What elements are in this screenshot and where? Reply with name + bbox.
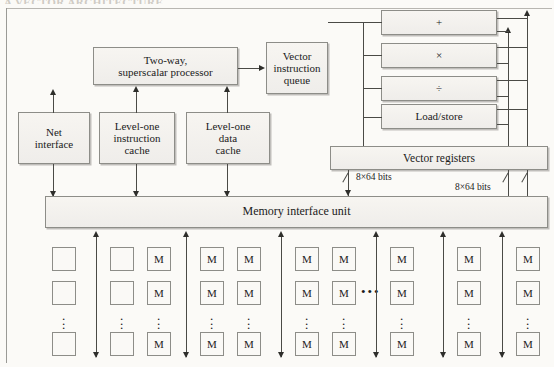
memory-cell [110, 247, 134, 271]
memory-cell-label: M [464, 253, 474, 265]
vector-queue-line2: instruction [271, 62, 322, 74]
arrowhead-processor-to-queue [259, 65, 265, 71]
block-l1-instruction-cache: Level-one instruction cache [99, 112, 175, 164]
memory-cell: M [237, 281, 261, 305]
memory-cell: M [332, 332, 356, 356]
memory-cell-label: M [154, 287, 164, 299]
memory-cell-label: M [523, 253, 533, 265]
wire-processor-to-queue [238, 68, 260, 69]
memory-cell-label: M [464, 338, 474, 350]
column-ellipsis: ... [206, 314, 217, 328]
memory-cell-label: M [523, 287, 533, 299]
block-vector-instruction-queue: Vector instruction queue [266, 42, 328, 94]
wire-miu-to-vregs-inner [508, 170, 509, 196]
memory-cell [110, 332, 134, 356]
memory-cell: M [295, 332, 319, 356]
memory-cell: M [200, 332, 224, 356]
column-ellipsis: ... [338, 314, 349, 328]
block-net-interface: Net interface [18, 112, 90, 164]
column-ellipsis: ... [116, 314, 127, 328]
arrowhead-l1d-to-processor [224, 86, 230, 92]
block-superscalar-processor: Two-way, superscalar processor [93, 47, 238, 85]
arrowhead-memory-bus-up [278, 231, 284, 237]
add-unit-label: + [434, 16, 444, 28]
memory-cell-label: M [302, 287, 312, 299]
wire-net-interface-up [53, 92, 54, 113]
processor-line1: Two-way, [116, 54, 214, 66]
memory-bus [96, 235, 97, 357]
result-tap-divide-outer [497, 80, 528, 81]
wire-queue-to-operand-bus [328, 22, 364, 23]
divide-unit-label: ÷ [434, 82, 444, 94]
memory-cell-label: M [244, 338, 254, 350]
block-vector-add-unit: + [381, 10, 497, 35]
memory-cell-label: M [154, 253, 164, 265]
memory-cell: M [237, 332, 261, 356]
memory-cell [52, 247, 76, 271]
operand-feed-multiply [363, 55, 382, 56]
memory-bus [281, 235, 282, 357]
wire-l1d-to-processor [227, 91, 228, 113]
memory-cell: M [516, 247, 540, 271]
arrowhead-memory-bus-down [440, 352, 446, 358]
block-vector-load-store-unit: Load/store [381, 104, 497, 129]
operand-feed-load-store [363, 117, 382, 118]
vector-registers-label: Vector registers [401, 152, 477, 165]
page-frame-left-rule [6, 8, 7, 363]
operand-feed-add [363, 22, 382, 23]
memory-cell: M [147, 247, 171, 271]
arrowhead-memory-bus-up [93, 231, 99, 237]
memory-bus [186, 235, 187, 357]
memory-cell-label: M [244, 287, 254, 299]
memory-cell: M [332, 247, 356, 271]
operand-feed-divide [363, 88, 382, 89]
memory-cell: M [390, 281, 414, 305]
result-tap-load-store-outer [497, 109, 528, 110]
memory-cell-label: M [154, 338, 164, 350]
memory-cell: M [332, 281, 356, 305]
arrowhead-result-bus-outer [524, 10, 530, 16]
arrowhead-l1i-to-processor [133, 86, 139, 92]
arrowhead-memory-bus-down [183, 352, 189, 358]
column-ellipsis: ... [463, 314, 474, 328]
memory-cell: M [516, 332, 540, 356]
block-l1-data-cache: Level-one data cache [186, 112, 270, 164]
memory-cell: M [457, 247, 481, 271]
column-ellipsis: ... [301, 314, 312, 328]
column-ellipsis: ... [522, 314, 533, 328]
memory-cell: M [390, 332, 414, 356]
processor-line2: superscalar processor [116, 66, 214, 78]
memory-cell [52, 332, 76, 356]
memory-cell-label: M [207, 287, 217, 299]
arrowhead-memory-bus-up [183, 231, 189, 237]
column-ellipsis: ... [396, 314, 407, 328]
running-header: A VECTOR ARCHITECTURE [4, 0, 163, 4]
memory-cell-label: M [207, 338, 217, 350]
memory-cell: M [295, 281, 319, 305]
memory-cell: M [295, 247, 319, 271]
column-ellipsis: ... [243, 314, 254, 328]
memory-bus [443, 235, 444, 357]
memory-bus [376, 235, 377, 357]
operand-bus-vertical [363, 22, 364, 146]
memory-bus [502, 235, 503, 357]
l1d-line2: data [204, 132, 253, 144]
wire-miu-to-vregs-outer [527, 170, 528, 196]
page-frame-top-rule [6, 8, 552, 9]
multiply-unit-label: × [434, 49, 444, 61]
memory-cell-label: M [302, 338, 312, 350]
arrowhead-net-interface-up [50, 89, 56, 95]
block-vector-registers: Vector registers [330, 146, 548, 170]
memory-cell: M [390, 247, 414, 271]
wire-l1i-to-processor [136, 91, 137, 113]
l1i-line2: instruction [111, 132, 162, 144]
memory-cell [52, 281, 76, 305]
figure-canvas: A VECTOR ARCHITECTURE Two-way, superscal… [0, 0, 554, 367]
result-tap-add-inner [497, 31, 509, 32]
arrowhead-memory-bus-up [373, 231, 379, 237]
result-tap-multiply-inner [497, 63, 509, 64]
result-bus-inner [508, 31, 509, 146]
memory-cell: M [200, 247, 224, 271]
memory-cell-label: M [339, 253, 349, 265]
vector-queue-line3: queue [271, 74, 322, 86]
